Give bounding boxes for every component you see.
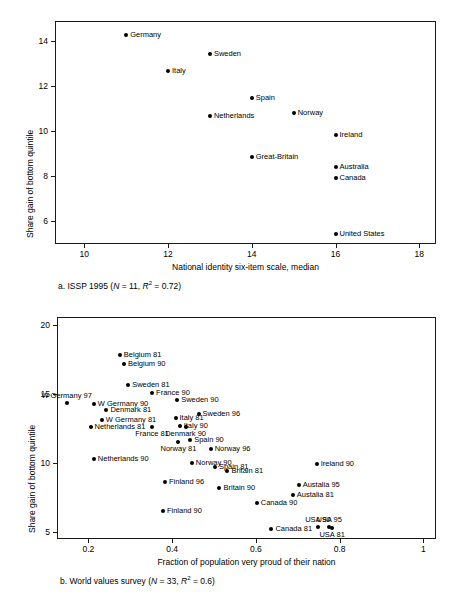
data-point-label: United States <box>340 230 385 238</box>
y-tick-label: 6 <box>43 217 48 226</box>
x-tick-label: 0.2 <box>82 545 94 554</box>
data-point-label: Belgium 81 <box>124 351 162 359</box>
data-point-label: W Germany 97 <box>41 392 91 400</box>
x-tick-label: 0.6 <box>250 545 262 554</box>
data-point <box>334 232 338 236</box>
data-point <box>315 462 319 466</box>
y-tick-mark <box>53 532 57 533</box>
panel-issp-1995: 101214161814121086 GermanySwedenItalySpa… <box>0 0 454 300</box>
data-point <box>188 438 192 442</box>
y-tick-label: 12 <box>39 82 48 91</box>
data-point <box>213 465 217 469</box>
data-point-label: Netherlands <box>214 112 254 120</box>
data-point-label: Ireland <box>340 131 363 139</box>
y-tick-label: 8 <box>43 172 48 181</box>
panel-caption-a: a. ISSP 1995 (N = 11, R2 = 0.72) <box>58 280 181 291</box>
x-tick-mark <box>168 244 169 248</box>
data-point <box>208 114 212 118</box>
data-point-label: Austalia 95 <box>303 481 340 489</box>
data-point <box>161 509 165 513</box>
y-tick-mark <box>51 41 55 42</box>
data-point-label: USA 81 <box>319 531 344 539</box>
y-tick-label: 5 <box>45 528 50 537</box>
data-point <box>104 408 108 412</box>
data-point-label: Sweden 96 <box>203 410 241 418</box>
data-point <box>166 69 170 73</box>
data-point <box>334 133 338 137</box>
data-point-label: Spain 90 <box>194 436 224 444</box>
x-tick-mark <box>84 244 85 248</box>
data-point <box>92 457 96 461</box>
x-tick-mark <box>340 539 341 543</box>
data-point <box>178 424 182 428</box>
panel-world-values-survey: 0.20.40.60.812015105 Belgium 81Belgium 9… <box>0 296 454 596</box>
data-point <box>209 447 213 451</box>
plot-area-a <box>55 21 436 244</box>
data-point <box>316 525 320 529</box>
y-tick-mark <box>53 325 57 326</box>
data-point <box>92 402 96 406</box>
data-point-label: Austalia 81 <box>297 491 334 499</box>
y-tick-label: 10 <box>39 127 48 136</box>
data-point <box>250 155 254 159</box>
data-point-label: Sweden <box>214 50 241 58</box>
y-tick-label: 20 <box>41 321 50 330</box>
data-point <box>297 483 301 487</box>
y-tick-label: 14 <box>39 37 48 46</box>
data-point <box>163 480 167 484</box>
data-point <box>190 461 194 465</box>
x-axis-title-a: National identity six-item scale, median <box>172 262 319 272</box>
data-point <box>124 33 128 37</box>
x-tick-label: 12 <box>163 250 172 259</box>
panel-caption-b: b. World values survey (N = 33, R2 = 0.6… <box>60 575 215 586</box>
x-tick-mark <box>172 539 173 543</box>
data-point <box>269 527 273 531</box>
data-point <box>217 486 221 490</box>
data-point-label: USA 95 <box>316 516 341 524</box>
data-point-label: Norway 96 <box>215 445 251 453</box>
data-point-label: Canada 81 <box>275 525 312 533</box>
data-point <box>255 501 259 505</box>
y-tick-mark <box>51 221 55 222</box>
data-point <box>292 111 296 115</box>
data-point-label: Denmark 81 <box>110 406 151 414</box>
data-point-label: Germany <box>130 31 161 39</box>
x-tick-mark <box>419 244 420 248</box>
data-point-label: France 81 <box>135 430 169 438</box>
x-tick-mark <box>252 244 253 248</box>
x-axis-title-b: Fraction of population very proud of the… <box>157 557 335 567</box>
x-tick-mark <box>256 539 257 543</box>
y-tick-mark <box>51 131 55 132</box>
data-point <box>334 176 338 180</box>
data-point <box>89 425 93 429</box>
data-point-label: Norway 81 <box>161 445 197 453</box>
x-tick-label: 0.8 <box>334 545 346 554</box>
data-point-label: Britain 90 <box>223 484 255 492</box>
data-point-label: Ireland 90 <box>321 460 354 468</box>
x-tick-label: 16 <box>331 250 340 259</box>
y-tick-mark <box>51 176 55 177</box>
data-point-label: Finland 96 <box>169 478 204 486</box>
data-point <box>118 353 122 357</box>
data-point-label: Finland 90 <box>167 507 202 515</box>
data-point <box>208 52 212 56</box>
data-point <box>334 165 338 169</box>
x-tick-mark <box>336 244 337 248</box>
data-point-label: Sweden 90 <box>181 396 219 404</box>
data-point <box>175 398 179 402</box>
y-axis-title-a: Share gain of bottom quintile <box>25 130 35 238</box>
x-tick-label: 18 <box>415 250 424 259</box>
data-point <box>65 401 69 405</box>
data-point-label: Canada 90 <box>261 499 298 507</box>
x-tick-label: 0.4 <box>166 545 178 554</box>
data-point-label: Spain <box>256 94 275 102</box>
data-point-label: Italy <box>172 67 186 75</box>
data-point-label: Belgium 90 <box>128 360 166 368</box>
y-tick-mark <box>53 463 57 464</box>
y-tick-label: 10 <box>41 459 50 468</box>
data-point <box>225 469 229 473</box>
data-point-label: Great-Britain <box>256 153 299 161</box>
data-point-label: Netherlands 90 <box>98 455 149 463</box>
data-point-label: Britain 81 <box>231 467 263 475</box>
data-point <box>174 416 178 420</box>
